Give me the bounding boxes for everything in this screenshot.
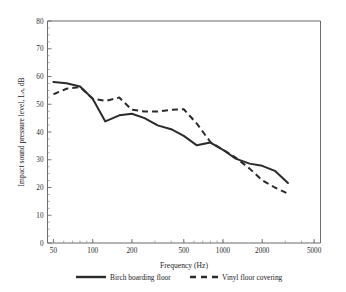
x-tick-label: 500 <box>178 247 189 255</box>
x-axis-title: Frequency (Hz) <box>160 261 208 270</box>
y-tick-label: 30 <box>36 156 44 164</box>
y-tick-label: 10 <box>36 212 44 220</box>
y-tick-label: 80 <box>36 18 44 26</box>
y-tick-label: 70 <box>36 45 44 53</box>
x-tick-label: 1000 <box>216 247 231 255</box>
chart-figure: 01020304050607080 5010020050010002000500… <box>0 0 346 292</box>
y-tick-label: 50 <box>36 101 44 109</box>
y-axis-title: Impact sound pressure level, Lₙ, dB <box>17 77 26 186</box>
x-tick-label: 200 <box>127 247 138 255</box>
y-tick-label: 20 <box>36 184 44 192</box>
legend-label-vinyl-floor-covering: Vinyl floor covering <box>222 273 283 282</box>
x-tick-label: 2000 <box>255 247 270 255</box>
y-axis-tick-labels: 01020304050607080 <box>36 18 44 248</box>
y-tick-label: 60 <box>36 73 44 81</box>
y-tick-label: 40 <box>36 129 44 137</box>
x-tick-label: 100 <box>87 247 98 255</box>
y-tick-label: 0 <box>40 240 44 248</box>
x-tick-label: 5000 <box>307 247 322 255</box>
x-tick-label: 50 <box>50 247 58 255</box>
legend-label-birch-boarding-floor: Birch boarding floor <box>110 273 171 282</box>
impact-sound-pressure-chart: 01020304050607080 5010020050010002000500… <box>0 0 346 292</box>
